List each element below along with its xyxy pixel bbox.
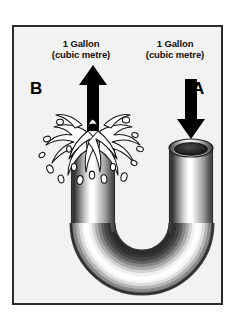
pipe-right-leg <box>169 145 213 233</box>
figure-root: 1 Gallon (cubic metre) 1 Gallon (cubic m… <box>0 0 237 321</box>
splash-droplet <box>101 174 108 183</box>
splash-droplet <box>122 117 129 123</box>
splash-droplet <box>67 146 72 152</box>
arrow-down-icon <box>177 79 205 139</box>
splash-droplet <box>110 163 115 170</box>
splash-droplet <box>76 175 83 185</box>
u-tube-illustration <box>14 27 221 303</box>
pipe-bore <box>175 143 208 156</box>
splash-droplet <box>57 174 64 183</box>
splash-droplet <box>89 171 94 179</box>
splash-droplet <box>38 151 46 158</box>
figure-title: U-tube flow diagram: one gallon in at A,… <box>0 0 1 1</box>
arrow-down-shape <box>177 79 205 139</box>
splash-droplet <box>57 119 64 125</box>
splash-droplet <box>71 163 76 170</box>
diagram-panel: 1 Gallon (cubic metre) 1 Gallon (cubic m… <box>12 25 223 305</box>
splash-droplet <box>46 164 55 174</box>
pipe-opening-icon <box>169 139 213 157</box>
